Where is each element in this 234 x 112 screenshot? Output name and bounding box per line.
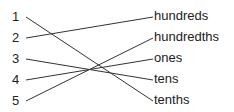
line-1-tenths [26, 17, 153, 101]
right-item-tenths: tenths [154, 93, 189, 107]
line-2-hundreds [26, 17, 153, 38]
right-item-hundreds: hundreds [154, 9, 208, 23]
right-item-hundredths: hundredths [154, 30, 219, 44]
right-item-tens: tens [154, 72, 179, 86]
right-item-ones: ones [154, 51, 182, 65]
line-5-hundredths [26, 38, 153, 101]
